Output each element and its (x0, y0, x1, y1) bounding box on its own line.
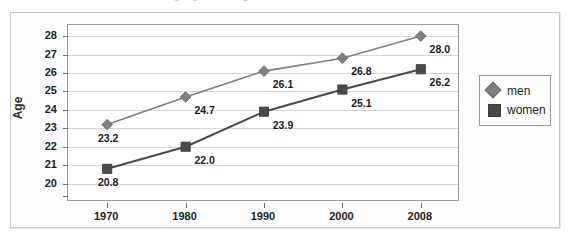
y-tick-label: 26 (35, 66, 57, 78)
data-label: 26.8 (351, 65, 371, 77)
data-point-men (415, 31, 426, 42)
x-tick-label: 1980 (155, 210, 215, 222)
x-tick-label: 2000 (311, 210, 371, 222)
data-point-women (181, 142, 190, 151)
x-tick-mark (107, 203, 108, 208)
plot-area: 23.224.726.126.828.020.822.023.925.126.2 (67, 24, 459, 201)
y-tick-label: 23 (35, 121, 57, 133)
y-tick-label: 22 (35, 140, 57, 152)
data-point-women (416, 65, 425, 74)
data-point-men (259, 66, 270, 77)
x-tick-label: 1990 (233, 210, 293, 222)
legend-entry-women[interactable]: women (486, 100, 544, 119)
y-tick-label: 24 (35, 103, 57, 115)
data-point-men (180, 92, 191, 103)
legend-label: women (507, 104, 546, 116)
y-tick-label: 20 (35, 177, 57, 189)
data-label: 26.1 (273, 78, 293, 90)
x-tick-label: 2008 (390, 210, 450, 222)
data-point-women (338, 85, 347, 94)
data-point-men (337, 53, 348, 64)
data-label: 22.0 (194, 154, 214, 166)
y-tick-label: 25 (35, 84, 57, 96)
cropped-header-strip: Average age at marriage, men and women (0, 0, 573, 10)
data-label: 23.2 (98, 132, 118, 144)
chart-figure-frame: Age 23.224.726.126.828.020.822.023.925.1… (10, 12, 560, 228)
diamond-marker-icon (486, 83, 501, 98)
chart-legend: menwomen (479, 75, 551, 126)
legend-entry-men[interactable]: men (486, 81, 544, 100)
data-label: 25.1 (351, 97, 371, 109)
x-tick-mark (186, 203, 187, 208)
x-tick-mark (264, 203, 265, 208)
x-tick-mark (342, 203, 343, 208)
y-tick-label: 21 (35, 158, 57, 170)
series-lines (68, 25, 460, 202)
series-line-women (107, 69, 421, 169)
cropped-title-text: Average age at marriage, men and women (150, 0, 328, 1)
x-tick-mark (421, 203, 422, 208)
data-point-men (102, 119, 113, 130)
x-tick-label: 1970 (76, 210, 136, 222)
data-point-women (103, 164, 112, 173)
legend-label: men (507, 85, 530, 97)
data-point-women (259, 107, 268, 116)
y-tick-label: 27 (35, 48, 57, 60)
data-label: 28.0 (430, 43, 450, 55)
y-axis-title: Age (11, 97, 25, 120)
data-label: 26.2 (430, 76, 450, 88)
data-label: 20.8 (98, 176, 118, 188)
square-marker-icon (486, 102, 501, 117)
y-tick-label: 28 (35, 29, 57, 41)
data-label: 23.9 (273, 119, 293, 131)
data-label: 24.7 (194, 104, 214, 116)
